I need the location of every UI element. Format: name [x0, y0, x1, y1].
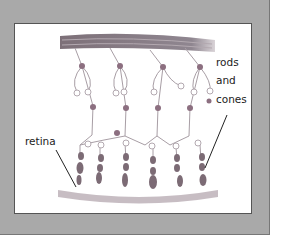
synapse-bulbs — [74, 83, 213, 149]
rods-leader-line — [205, 115, 227, 168]
label-rods: rods — [216, 56, 239, 68]
retina-layer — [58, 190, 218, 204]
label-and: and — [216, 74, 236, 86]
retina-leader-line — [56, 150, 76, 187]
retina-illustration — [0, 0, 291, 241]
optic-nerve — [60, 34, 215, 52]
label-cones: cones — [216, 93, 247, 105]
label-retina: retina — [25, 135, 56, 147]
neuron-branches — [74, 48, 210, 160]
rods-and-cones — [77, 152, 207, 189]
